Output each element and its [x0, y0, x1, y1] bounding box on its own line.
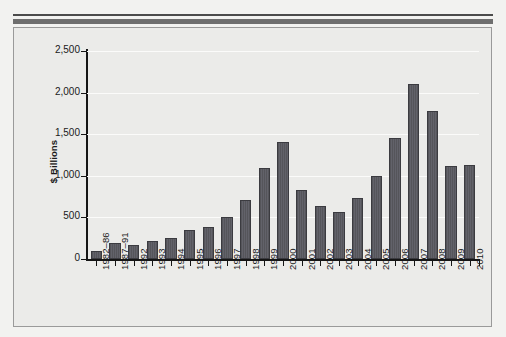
header-rule-thin	[13, 14, 493, 16]
x-axis-label: 1982–86	[100, 232, 111, 270]
bar	[259, 168, 271, 259]
x-axis-label: 2002	[324, 248, 335, 270]
bar	[445, 166, 457, 259]
y-axis-label: 0	[30, 252, 80, 263]
x-axis-label: 2005	[380, 248, 391, 270]
x-axis-label: 1987–91	[119, 232, 130, 270]
x-axis-tick	[320, 261, 321, 266]
x-axis-label: 1996	[212, 248, 223, 270]
chart-page: $ Billions 05001,0001,5002,0002,500 1982…	[0, 0, 506, 337]
x-axis-tick	[190, 261, 191, 266]
x-axis-tick	[246, 261, 247, 266]
x-axis-label: 2009	[455, 248, 466, 270]
x-axis-label: 1999	[268, 248, 279, 270]
x-axis-end-tick	[479, 261, 480, 266]
bar	[389, 138, 401, 259]
x-axis-tick	[283, 261, 284, 266]
x-axis-label: 1995	[194, 248, 205, 270]
x-axis-label: 2010	[474, 248, 485, 270]
x-axis-tick	[302, 261, 303, 266]
bar	[371, 176, 383, 259]
x-axis-tick	[96, 261, 97, 266]
bar	[408, 84, 420, 259]
bar	[464, 165, 476, 259]
x-axis-label: 2007	[418, 248, 429, 270]
header-rule-thick	[13, 19, 493, 24]
x-axis-tick	[376, 261, 377, 266]
x-axis-label: 2000	[287, 248, 298, 270]
x-axis-tick	[339, 261, 340, 266]
x-axis-tick	[414, 261, 415, 266]
plot-area	[87, 51, 479, 259]
x-axis-label: 2006	[399, 248, 410, 270]
x-axis-tick	[451, 261, 452, 266]
x-axis-label: 1993	[156, 248, 167, 270]
x-axis-label: 1994	[175, 248, 186, 270]
x-axis-label: 1992	[138, 248, 149, 270]
x-axis-label: 2004	[362, 248, 373, 270]
y-axis-tick	[81, 259, 87, 260]
y-axis-label: 1,000	[30, 169, 80, 180]
gridline	[87, 134, 479, 135]
y-axis-label: 2,500	[30, 44, 80, 55]
x-axis-tick	[208, 261, 209, 266]
x-axis-label: 1997	[231, 248, 242, 270]
y-axis-label: 500	[30, 210, 80, 221]
x-axis-tick	[395, 261, 396, 266]
bar	[427, 111, 439, 259]
chart-frame: $ Billions 05001,0001,5002,0002,500 1982…	[13, 27, 492, 327]
x-axis-tick	[134, 261, 135, 266]
x-axis-tick	[470, 261, 471, 266]
bar	[277, 142, 289, 259]
x-axis-tick	[227, 261, 228, 266]
x-axis-label: 2001	[306, 248, 317, 270]
x-axis-tick	[432, 261, 433, 266]
x-axis-tick	[115, 261, 116, 266]
x-axis-tick	[171, 261, 172, 266]
y-axis-label: 2,000	[30, 86, 80, 97]
x-axis-tick	[264, 261, 265, 266]
x-axis-label: 1998	[250, 248, 261, 270]
x-axis-tick	[152, 261, 153, 266]
gridline	[87, 51, 479, 52]
x-axis-label: 2003	[343, 248, 354, 270]
y-axis-label: 1,500	[30, 127, 80, 138]
x-axis-label: 2008	[436, 248, 447, 270]
x-axis-tick	[358, 261, 359, 266]
gridline	[87, 93, 479, 94]
